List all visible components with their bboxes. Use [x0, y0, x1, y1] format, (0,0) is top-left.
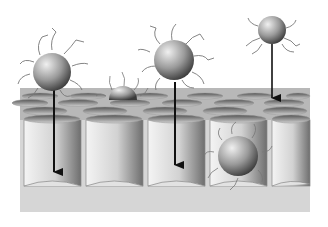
nanoparticle — [154, 40, 194, 80]
nanoparticle-pore-illustration — [0, 0, 328, 227]
pore — [86, 120, 143, 186]
nanoparticle — [258, 16, 286, 44]
figure — [0, 0, 328, 227]
pore — [24, 120, 81, 186]
nanoparticle — [33, 53, 71, 91]
pore-row — [24, 120, 310, 186]
pore — [148, 120, 205, 186]
nanoparticle — [218, 136, 258, 176]
pore — [272, 120, 310, 186]
